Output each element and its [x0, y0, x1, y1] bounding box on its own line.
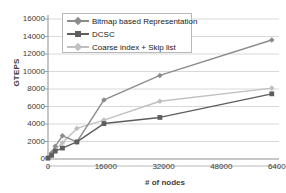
square-marker-icon: [60, 146, 65, 151]
x-tick-label: 0: [28, 162, 68, 171]
x-tick-label: 48000: [201, 162, 241, 171]
x-tick-label: 64000: [259, 162, 286, 171]
diamond-marker-icon: [269, 37, 275, 43]
diamond-marker-icon: [269, 85, 275, 91]
y-tick-label: 14000: [1, 33, 45, 41]
square-marker-icon: [49, 153, 54, 158]
x-tick-label: 16000: [86, 162, 126, 171]
y-tick-label: 4000: [1, 120, 45, 128]
legend-item-bitmap: Bitmap based Representation: [67, 15, 197, 27]
x-axis-title: # of nodes: [48, 178, 282, 187]
x-tick-label: 32000: [144, 162, 184, 171]
legend-label-coarse-index: Coarse index + Skip list: [92, 43, 176, 52]
legend-label-bitmap: Bitmap based Representation: [92, 17, 197, 26]
y-tick-label: 10000: [1, 68, 45, 76]
chart-legend: Bitmap based Representation DCSC Coarse …: [62, 13, 192, 53]
diamond-marker-icon: [74, 43, 82, 51]
y-tick-label: 8000: [1, 85, 45, 93]
chart-container: 0200040006000800010000120001400016000 GT…: [0, 0, 286, 193]
y-tick-label: 12000: [1, 50, 45, 58]
y-tick-label: 6000: [1, 103, 45, 111]
square-marker-icon: [102, 121, 107, 126]
y-axis-title: GTEPS: [12, 43, 21, 103]
square-marker-icon: [269, 91, 274, 96]
y-tick-label: 16000: [1, 15, 45, 23]
diamond-marker-icon: [157, 73, 163, 79]
y-tick-label: 2000: [1, 138, 45, 146]
square-marker-icon: [75, 31, 81, 37]
legend-swatch-bitmap: [67, 16, 89, 26]
legend-item-coarse-index: Coarse index + Skip list: [67, 41, 176, 53]
square-marker-icon: [157, 115, 162, 120]
diamond-marker-icon: [157, 98, 163, 104]
legend-swatch-dcsc: [67, 29, 89, 39]
diamond-marker-icon: [74, 17, 82, 25]
square-marker-icon: [53, 149, 58, 154]
legend-swatch-coarse-index: [67, 42, 89, 52]
legend-item-dcsc: DCSC: [67, 28, 115, 40]
legend-label-dcsc: DCSC: [92, 30, 115, 39]
square-marker-icon: [74, 140, 79, 145]
